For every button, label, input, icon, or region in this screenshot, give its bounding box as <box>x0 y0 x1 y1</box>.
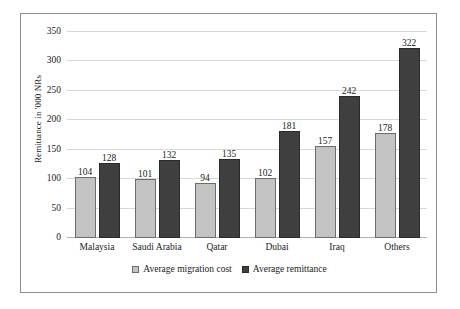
bar[interactable]: 242 <box>339 96 360 238</box>
bar-value-label: 242 <box>342 86 356 96</box>
bar-group: 94135 <box>187 32 247 238</box>
bar[interactable]: 104 <box>75 177 96 238</box>
bar[interactable]: 132 <box>159 160 180 238</box>
category-label: Saudi Arabia <box>127 242 187 252</box>
legend-label: Average remittance <box>253 264 327 274</box>
plot-area: 050100150200250300350 104128101132941351… <box>67 32 427 238</box>
category-label: Qatar <box>187 242 247 252</box>
bar-value-label: 178 <box>378 123 392 133</box>
bar-chart: Remittance in '000 NRs 05010015020025030… <box>21 14 438 294</box>
x-axis-category-labels: MalaysiaSaudi ArabiaQatarDubaiIraqOthers <box>67 242 427 252</box>
legend-item[interactable]: Average remittance <box>242 264 327 274</box>
y-tick-label: 350 <box>21 26 61 36</box>
chart-legend: Average migration costAverage remittance <box>21 264 438 274</box>
y-tick-label: 300 <box>21 55 61 65</box>
bar-group: 102181 <box>247 32 307 238</box>
bar[interactable]: 322 <box>399 48 420 238</box>
legend-item[interactable]: Average migration cost <box>132 264 231 274</box>
bar[interactable]: 181 <box>279 131 300 238</box>
y-tick-label: 50 <box>21 203 61 213</box>
category-label: Others <box>367 242 427 252</box>
y-tick-label: 250 <box>21 85 61 95</box>
bar[interactable]: 128 <box>99 163 120 238</box>
bar[interactable]: 101 <box>135 179 156 238</box>
bar-group: 178322 <box>367 32 427 238</box>
y-tick-label: 100 <box>21 173 61 183</box>
bar-value-label: 157 <box>318 136 332 146</box>
bar[interactable]: 157 <box>315 146 336 238</box>
bar-value-label: 128 <box>102 153 116 163</box>
bar[interactable]: 178 <box>375 133 396 238</box>
legend-swatch-icon <box>242 266 249 273</box>
bar-value-label: 104 <box>78 167 92 177</box>
y-tick-label: 0 <box>21 232 61 242</box>
bar-value-label: 102 <box>258 168 272 178</box>
category-label: Malaysia <box>67 242 127 252</box>
y-tick-label: 150 <box>21 144 61 154</box>
figure-frame: Remittance in '000 NRs 05010015020025030… <box>20 13 437 293</box>
bar-groups: 10412810113294135102181157242178322 <box>67 32 427 238</box>
y-tick-label: 200 <box>21 114 61 124</box>
bar-value-label: 135 <box>222 149 236 159</box>
legend-swatch-icon <box>132 266 139 273</box>
bar-group: 104128 <box>67 32 127 238</box>
bar-value-label: 322 <box>402 38 416 48</box>
category-label: Iraq <box>307 242 367 252</box>
bar-value-label: 181 <box>282 121 296 131</box>
bar[interactable]: 94 <box>195 183 216 238</box>
bar-group: 157242 <box>307 32 367 238</box>
bar-group: 101132 <box>127 32 187 238</box>
category-label: Dubai <box>247 242 307 252</box>
bar[interactable]: 135 <box>219 159 240 238</box>
bar-value-label: 101 <box>138 169 152 179</box>
bar-value-label: 94 <box>200 173 210 183</box>
bar-value-label: 132 <box>162 150 176 160</box>
legend-label: Average migration cost <box>143 264 231 274</box>
bar[interactable]: 102 <box>255 178 276 238</box>
